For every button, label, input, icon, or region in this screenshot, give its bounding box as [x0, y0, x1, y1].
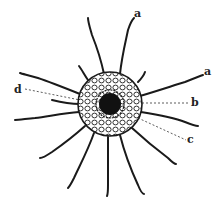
- label-d: d: [14, 84, 22, 95]
- label-b: b: [191, 97, 199, 108]
- vascular-core: [99, 93, 121, 115]
- label-a-right: a: [204, 66, 211, 77]
- root-cross-section-figure: a a b c d: [0, 0, 220, 203]
- root-diagram-drawing: [0, 0, 220, 203]
- label-c: c: [187, 134, 194, 145]
- label-a-top: a: [134, 8, 141, 19]
